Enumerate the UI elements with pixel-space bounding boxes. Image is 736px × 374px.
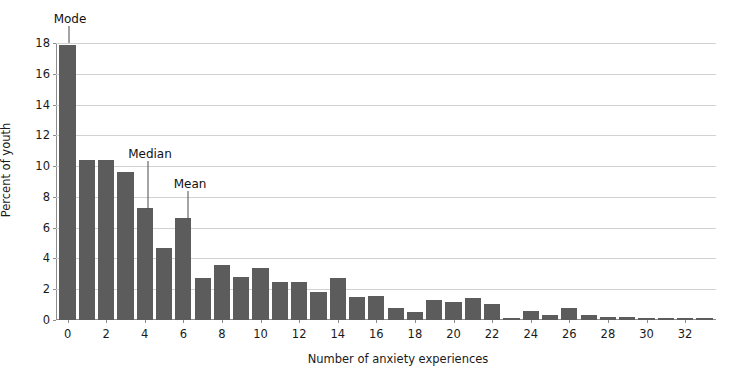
bar [696, 318, 712, 320]
bar [59, 45, 75, 320]
x-tick-label: 26 [562, 327, 577, 341]
x-tick-mark [608, 320, 609, 323]
x-tick-mark [685, 320, 686, 323]
x-tick-label: 18 [408, 327, 423, 341]
bar [503, 318, 519, 320]
x-tick-mark [376, 320, 377, 323]
x-tick-mark [299, 320, 300, 323]
x-tick-mark [454, 320, 455, 323]
x-tick-label: 16 [369, 327, 384, 341]
x-tick-mark [106, 320, 107, 323]
x-tick-label: 8 [218, 327, 225, 341]
y-tick-label: 12 [35, 128, 50, 142]
x-tick-label: 12 [292, 327, 307, 341]
bar [98, 160, 114, 320]
bar [117, 172, 133, 320]
bar [349, 297, 365, 320]
x-tick-mark [145, 320, 146, 323]
bar [465, 298, 481, 320]
x-tick-label: 32 [678, 327, 693, 341]
plot-area: 024681012141618 024681012141618202224262… [56, 43, 716, 320]
x-tick-label: 0 [64, 327, 71, 341]
x-tick-label: 2 [103, 327, 110, 341]
x-tick-label: 20 [446, 327, 461, 341]
y-tick-label: 16 [35, 67, 50, 81]
x-tick-mark [647, 320, 648, 323]
annotation-label-median: Median [128, 147, 172, 161]
x-tick-mark [338, 320, 339, 323]
y-tick-label: 14 [35, 98, 50, 112]
x-tick-mark [222, 320, 223, 323]
bar [658, 318, 674, 320]
annotation-leader-line-median [148, 161, 149, 209]
bar [523, 311, 539, 320]
annotation-label-mode: Mode [54, 12, 87, 26]
bar [561, 308, 577, 320]
x-tick-label: 24 [523, 327, 538, 341]
y-tick-mark [53, 320, 56, 321]
annotation-leader-line-mean [188, 191, 189, 219]
x-tick-mark [415, 320, 416, 323]
y-tick-label: 4 [43, 251, 50, 265]
bar [388, 308, 404, 320]
y-tick-label: 6 [43, 221, 50, 235]
bar [542, 315, 558, 320]
x-tick-label: 30 [639, 327, 654, 341]
x-tick-label: 28 [601, 327, 616, 341]
x-tick-mark [569, 320, 570, 323]
x-tick-mark [261, 320, 262, 323]
x-tick-mark [183, 320, 184, 323]
x-tick-label: 10 [253, 327, 268, 341]
x-tick-label: 14 [330, 327, 345, 341]
bar [445, 302, 461, 320]
x-tick-mark [492, 320, 493, 323]
bar [484, 304, 500, 320]
bar [214, 265, 230, 320]
x-axis-title: Number of anxiety experiences [0, 352, 736, 366]
x-tick-mark [531, 320, 532, 323]
bar [581, 315, 597, 320]
bar [252, 268, 268, 320]
bar [407, 312, 423, 320]
x-tick-mark [68, 320, 69, 323]
bar [137, 208, 153, 320]
x-axis-title-text: Number of anxiety experiences [308, 352, 489, 366]
bar [368, 296, 384, 320]
bar [79, 160, 95, 320]
y-tick-label: 0 [43, 313, 50, 327]
x-tick-label: 6 [180, 327, 187, 341]
bar-series [56, 43, 716, 320]
y-tick-label: 10 [35, 159, 50, 173]
x-tick-label: 4 [141, 327, 148, 341]
bar [195, 278, 211, 320]
x-tick-label: 22 [485, 327, 500, 341]
bar [291, 282, 307, 320]
bar [330, 278, 346, 320]
y-tick-label: 2 [43, 282, 50, 296]
bar-chart: Percent of youth 024681012141618 0246810… [0, 0, 736, 374]
y-tick-label: 8 [43, 190, 50, 204]
bar [156, 248, 172, 320]
bar [175, 218, 191, 320]
bar [619, 317, 635, 320]
y-tick-label: 18 [35, 36, 50, 50]
bar [426, 300, 442, 320]
y-axis-title: Percent of youth [0, 123, 13, 218]
annotation-leader-line-mode [69, 26, 70, 43]
bar [272, 282, 288, 320]
bar [310, 292, 326, 320]
bar [233, 277, 249, 320]
annotation-label-mean: Mean [174, 177, 207, 191]
